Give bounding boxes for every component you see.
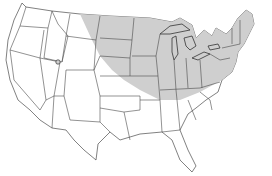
us-range-map <box>0 0 272 176</box>
map-svg <box>0 0 272 176</box>
utah-marker <box>56 60 60 64</box>
